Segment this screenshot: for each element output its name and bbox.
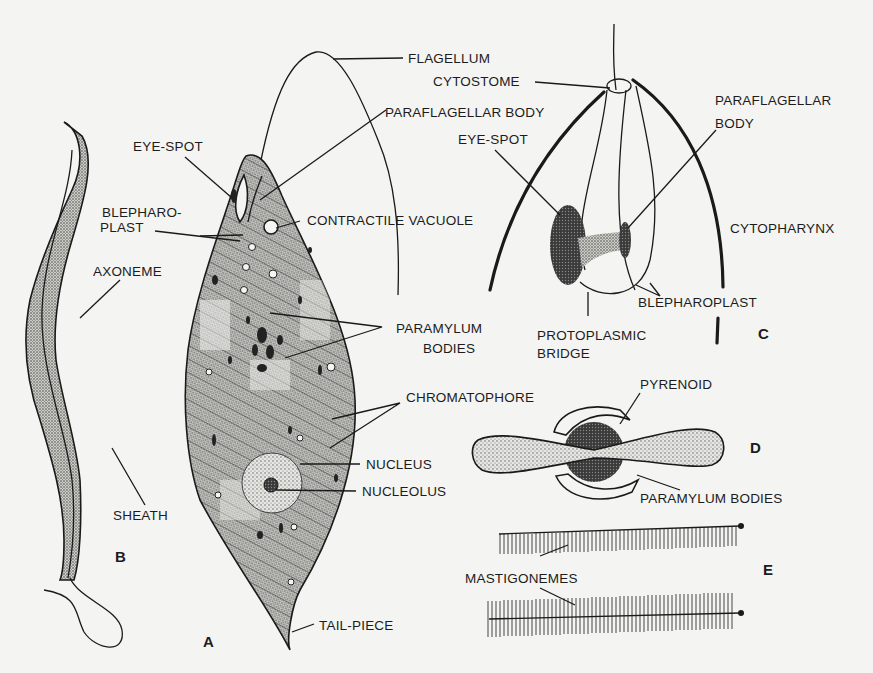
paraflagellar-pointer-c: [628, 130, 716, 228]
protoplasmic-bridge: [578, 232, 622, 268]
cytostome: [607, 79, 631, 93]
eye-spot-a: [231, 189, 237, 203]
label-eye-spot-c: EYE-SPOT: [458, 132, 528, 147]
figure-e-mastigonemes: MASTIGONEMES E: [465, 523, 773, 637]
label-axoneme: AXONEME: [93, 264, 162, 279]
tail-piece-pointer: [292, 624, 314, 632]
label-tail-piece: TAIL-PIECE: [319, 618, 394, 633]
figure-c-anterior: CYTOSTOME EYE-SPOT PARAFLAGELLAR BODY CY…: [433, 24, 834, 361]
paramylum-pointer-d: [637, 475, 680, 490]
label-sheath: SHEATH: [113, 508, 168, 523]
eye-spot-pointer-c: [495, 150, 560, 215]
figure-letter-b: B: [115, 548, 126, 565]
cell-wall-right: [633, 80, 723, 287]
label-cytopharynx: CYTOPHARYNX: [730, 221, 834, 236]
figure-letter-e: E: [763, 561, 773, 578]
mastigoneme-row-2: [488, 593, 732, 637]
figure-letter-a: A: [203, 633, 214, 650]
label-paramylum-bodies-d: PARAMYLUM BODIES: [640, 491, 782, 506]
sheath-shape: [26, 122, 88, 580]
label-paramylum-bodies-a-1: PARAMYLUM: [396, 321, 482, 336]
label-blepharoplast-a-1: BLEPHARO-: [102, 205, 182, 220]
flagellum-axis-2: [489, 613, 740, 619]
label-protoplasmic-bridge-2: BRIDGE: [537, 346, 590, 361]
label-nucleolus: NUCLEOLUS: [362, 484, 446, 499]
cytopharynx-inner: [619, 90, 635, 290]
nucleolus: [264, 478, 278, 492]
label-mastigonemes: MASTIGONEMES: [465, 571, 578, 586]
diagram-canvas: AXONEME SHEATH B: [0, 0, 873, 673]
paraflagellar-pointer-a: [260, 110, 386, 200]
euglena-diagram: AXONEME SHEATH B: [0, 0, 873, 673]
mastigonemes-pointer-2: [540, 588, 575, 605]
label-contractile-vacuole: CONTRACTILE VACUOLE: [307, 213, 473, 228]
sheath-pointer: [112, 448, 145, 505]
label-nucleus: NUCLEUS: [366, 457, 432, 472]
contractile-vacuole: [264, 220, 278, 234]
figure-b-flagellum: AXONEME SHEATH B: [26, 122, 168, 647]
cytostome-pointer: [535, 82, 610, 88]
reservoir-c: [580, 86, 655, 294]
label-paraflagellar-body-c-2: BODY: [715, 116, 754, 131]
label-flagellum: FLAGELLUM: [408, 51, 490, 66]
label-blepharoplast-a-2: PLAST: [100, 220, 144, 235]
label-paraflagellar-body-c-1: PARAFLAGELLAR: [715, 93, 831, 108]
label-cytostome: CYTOSTOME: [433, 74, 520, 89]
label-pyrenoid: PYRENOID: [640, 377, 712, 392]
figure-letter-c: C: [758, 325, 769, 342]
axoneme-pointer: [80, 280, 120, 318]
label-blepharoplast-c: BLEPHAROPLAST: [638, 295, 757, 310]
label-paramylum-bodies-a-2: BODIES: [423, 341, 475, 356]
label-eye-spot-a: EYE-SPOT: [133, 139, 203, 154]
flagellum-loop: [44, 578, 122, 647]
flagellum-pointer: [333, 58, 403, 59]
figure-letter-d: D: [750, 439, 761, 456]
label-protoplasmic-bridge-1: PROTOPLASMIC: [537, 328, 646, 343]
label-paraflagellar-body-a: PARAFLAGELLAR BODY: [385, 105, 544, 120]
eye-spot-pointer-a: [185, 157, 232, 198]
label-chromatophore: CHROMATOPHORE: [406, 390, 534, 405]
